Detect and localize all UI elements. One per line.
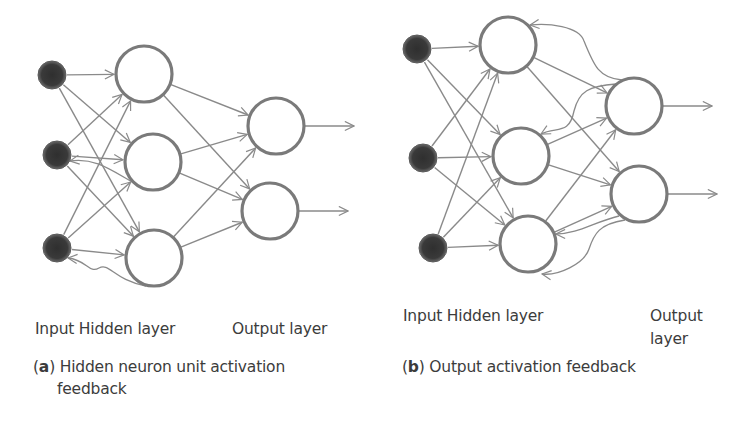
panel-b-caption-close-paren: ) xyxy=(419,358,425,376)
hidden-neuron xyxy=(125,134,181,190)
hidden-neuron xyxy=(116,46,172,102)
panel-b-input-hidden-label: Input Hidden layer xyxy=(403,306,543,326)
input-to-hidden-edge xyxy=(443,178,500,237)
input-neuron xyxy=(43,141,71,169)
input-to-hidden-edge xyxy=(448,245,498,247)
input-to-hidden-edge xyxy=(432,69,490,146)
edges xyxy=(59,74,354,255)
output-neuron xyxy=(248,98,304,154)
hidden-to-output-edge xyxy=(548,118,607,144)
hidden-neuron xyxy=(126,230,182,286)
panel-b-caption-text: Output activation feedback xyxy=(429,358,635,376)
hidden-to-output-edge xyxy=(549,165,611,185)
hidden-to-output-edge xyxy=(171,85,248,115)
input-to-hidden-edge xyxy=(64,101,131,235)
panel-a-caption-line2: feedback xyxy=(57,379,127,400)
output-neuron xyxy=(611,166,667,222)
panel-b-caption-letter: b xyxy=(408,358,419,376)
panel-a-output-label: Output layer xyxy=(232,319,327,339)
panel-a-diagram xyxy=(38,46,354,286)
input-neuron xyxy=(38,61,66,89)
panel-a-caption-text-line1: Hidden neuron unit activation xyxy=(60,358,285,376)
hidden-to-output-edge xyxy=(181,222,242,247)
hidden-neuron xyxy=(500,216,556,272)
input-to-hidden-edge xyxy=(68,182,130,238)
panel-a-caption-close-paren: ) xyxy=(49,358,55,376)
panel-a-caption: (a) Hidden neuron unit activation xyxy=(33,357,285,378)
hidden-to-output-edge xyxy=(546,130,616,221)
hidden-neuron xyxy=(493,128,549,184)
output-neuron xyxy=(606,78,662,134)
panel-a-caption-letter: a xyxy=(39,358,49,376)
feedback-curve xyxy=(530,24,622,80)
edges xyxy=(424,46,717,247)
panel-b-diagram xyxy=(403,17,717,274)
feedback-curve xyxy=(556,216,619,234)
input-neuron xyxy=(419,234,447,262)
input-neuron xyxy=(403,35,431,63)
panel-a-input-hidden-label: Input Hidden layer xyxy=(35,319,175,339)
panel-b-output-label-line2: layer xyxy=(650,329,688,349)
panel-b-caption: (b) Output activation feedback xyxy=(402,357,636,378)
input-to-hidden-edge xyxy=(72,250,124,255)
hidden-neuron xyxy=(480,17,536,73)
output-neuron xyxy=(242,183,298,239)
input-neuron xyxy=(43,234,71,262)
panel-b-output-label-line1: Output xyxy=(650,306,703,326)
input-neuron xyxy=(409,144,437,172)
input-to-hidden-edge xyxy=(432,46,478,48)
neurons xyxy=(403,17,667,272)
input-to-hidden-edge xyxy=(67,74,114,75)
input-to-hidden-edge xyxy=(438,157,491,158)
